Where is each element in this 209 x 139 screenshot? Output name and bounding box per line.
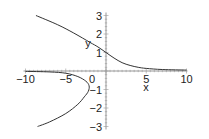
- y-tick-label: −1: [89, 84, 102, 96]
- y-tick-label: 1: [96, 47, 102, 59]
- x-tick-label: 10: [180, 73, 192, 85]
- implicit-plot: −10−50510−3−2−1123 x y: [0, 0, 209, 139]
- y-tick-label: −2: [89, 102, 102, 114]
- plot-canvas: −10−50510−3−2−1123 x y: [0, 0, 209, 139]
- y-axis-label: y: [85, 37, 91, 49]
- x-axis-label: x: [143, 81, 149, 93]
- x-tick-label: −5: [59, 73, 72, 85]
- upper-branch-curve: [36, 16, 187, 71]
- y-tick-label: −3: [89, 121, 102, 133]
- y-tick-label: 2: [96, 28, 102, 40]
- y-tick-label: 3: [96, 10, 102, 22]
- lower-branch-curve: [26, 71, 90, 126]
- x-tick-label: −10: [16, 73, 35, 85]
